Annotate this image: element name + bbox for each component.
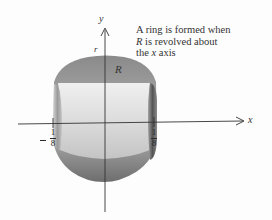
x-axis-label: x	[248, 115, 252, 125]
tick-left-numerator: 1	[51, 128, 56, 137]
figure-caption: A ring is formed when R is revolved abou…	[136, 24, 231, 59]
y-axis-label: y	[99, 14, 103, 24]
caption-line-1: A ring is formed when	[136, 24, 231, 36]
tick-right-numerator: 1	[152, 128, 157, 137]
tick-left-label: 1 8	[50, 128, 56, 148]
ring-hole	[58, 83, 150, 159]
radius-label: r	[94, 45, 98, 54]
tick-left-denominator: 8	[51, 139, 56, 148]
caption-line-3: the x axis	[136, 47, 231, 59]
tick-left-minus-sign	[40, 140, 46, 141]
caption-line-2: R is revolved about	[136, 36, 231, 48]
ring-figure: y x r R A ring is formed when R is revol…	[0, 0, 272, 220]
region-label: R	[115, 64, 122, 75]
tick-right-label: 1 8	[151, 128, 157, 148]
ring-right-band	[148, 83, 157, 160]
tick-right-denominator: 8	[152, 139, 157, 148]
